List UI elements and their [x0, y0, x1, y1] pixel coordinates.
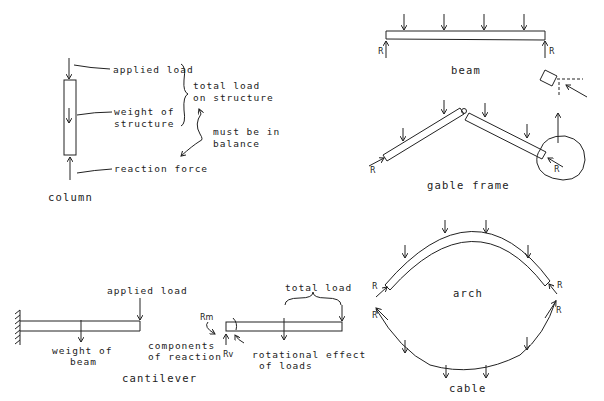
rotational-leader: [235, 335, 244, 343]
beam-r-right: R: [549, 47, 555, 56]
moment-arc: [233, 318, 237, 330]
label-applied-load: applied load: [113, 64, 194, 75]
cable-figure: [376, 300, 556, 378]
label-rv: Rv: [223, 350, 233, 359]
balance-arrow-up: [199, 109, 201, 114]
label-components: components: [148, 340, 215, 351]
cantilever-member: [20, 321, 140, 331]
caption-column: column: [48, 191, 93, 203]
label-beam: beam: [70, 356, 97, 367]
label-rotational-effect: rotational effect: [252, 349, 366, 360]
label-reaction-force: reaction force: [114, 163, 208, 174]
arch-r-left: R: [372, 282, 378, 291]
detail-circle: [537, 136, 585, 180]
gable-frame-figure: [369, 100, 585, 180]
gable-right-member: [465, 113, 546, 159]
caption-arch: arch: [453, 287, 483, 299]
label-weight-of: weight of: [52, 345, 112, 356]
column-member: [64, 80, 76, 155]
label-weight-line2: structure: [114, 118, 174, 129]
total-load-brace: [285, 292, 341, 305]
gable-r-left: R: [370, 166, 376, 175]
rm-arrow: [207, 322, 215, 334]
beam-figure: [386, 14, 545, 58]
weight-leader: [77, 112, 112, 115]
caption-beam: beam: [451, 64, 481, 76]
label-cantilever-applied-load: applied load: [107, 285, 188, 296]
arch-outer: [385, 231, 550, 285]
arch-figure: [376, 220, 557, 297]
label-weight-line1: weight of: [114, 106, 174, 117]
cantilever-figure: [15, 292, 342, 345]
label-rm: Rm: [200, 313, 213, 322]
caption-cable: cable: [449, 382, 487, 394]
label-total-load-1: total load: [193, 80, 260, 91]
label-of-loads: of loads: [259, 360, 313, 371]
label-of-reaction: of reaction: [148, 351, 222, 362]
cable-r-right: R: [556, 306, 562, 315]
cable-curve: [376, 300, 556, 370]
arch-r-right: R: [557, 281, 563, 290]
applied-load-leader: [74, 65, 110, 69]
label-balance-1: must be in: [213, 126, 280, 137]
cable-r-left: R: [372, 311, 378, 320]
arch-inner: [390, 241, 545, 290]
label-total-load: total load: [285, 282, 352, 293]
caption-gable-frame: gable frame: [427, 179, 510, 191]
caption-cantilever: cantilever: [122, 372, 197, 384]
gable-left-member: [383, 108, 464, 161]
label-total-load-2: on structure: [193, 92, 274, 103]
reaction-leader: [77, 169, 112, 173]
wall-hatching: [15, 310, 20, 344]
gable-r-right: R: [554, 165, 560, 174]
beam-r-left: R: [378, 47, 384, 56]
label-balance-2: balance: [213, 138, 260, 149]
support-detail: [540, 70, 587, 97]
beam-member: [386, 31, 545, 40]
